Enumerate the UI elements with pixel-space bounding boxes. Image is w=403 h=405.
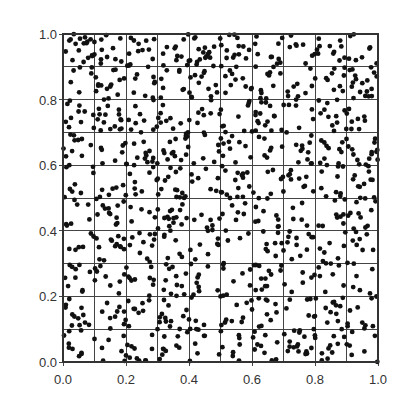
data-point (114, 222, 119, 227)
data-point (356, 117, 361, 122)
data-point (109, 82, 114, 87)
data-point (72, 198, 77, 203)
data-point (234, 218, 239, 223)
data-point (117, 305, 122, 310)
data-point (76, 109, 81, 114)
data-point (139, 189, 144, 194)
data-point (102, 258, 107, 263)
data-point (281, 248, 286, 253)
data-point (63, 305, 68, 310)
data-point (137, 231, 142, 236)
data-point (91, 164, 96, 169)
data-point (150, 243, 155, 248)
data-point (365, 89, 370, 94)
data-point (194, 327, 199, 332)
data-point (161, 148, 166, 153)
data-point (138, 251, 143, 256)
data-point (159, 187, 164, 192)
data-point (282, 282, 287, 287)
data-point (251, 190, 256, 195)
data-point (278, 268, 283, 273)
data-point (113, 67, 118, 72)
data-point (179, 158, 184, 163)
data-point (124, 162, 129, 167)
data-point (289, 257, 294, 262)
data-point (241, 44, 246, 49)
data-point (233, 77, 238, 82)
data-point (309, 133, 314, 138)
data-point (316, 265, 321, 270)
data-point (268, 104, 273, 109)
data-point (78, 36, 83, 41)
data-point (152, 80, 157, 85)
data-point (311, 189, 316, 194)
data-point (335, 174, 340, 179)
data-point (147, 210, 152, 215)
data-point (72, 138, 77, 143)
data-point (113, 158, 118, 163)
data-point (337, 147, 342, 152)
data-point (344, 137, 349, 142)
data-point (202, 323, 207, 328)
data-point (136, 49, 141, 54)
data-point (196, 176, 201, 181)
data-point (332, 66, 337, 71)
data-point (209, 98, 214, 103)
grid-lines (59, 34, 378, 366)
data-point (132, 163, 137, 168)
data-point (108, 127, 113, 132)
data-point (265, 298, 270, 303)
data-point (342, 335, 347, 340)
data-point (287, 339, 292, 344)
data-point (223, 228, 228, 233)
data-point (302, 334, 307, 339)
data-point (180, 202, 185, 207)
data-point (230, 134, 235, 139)
data-point (279, 128, 284, 133)
data-point (365, 78, 370, 83)
data-point (105, 86, 110, 91)
y-axis: 0.0 0.2 0.4 0.6 0.8 1.0 (39, 27, 57, 370)
data-point (370, 267, 375, 272)
data-point (280, 144, 285, 149)
data-point (286, 94, 291, 99)
data-point (337, 263, 342, 268)
data-point (158, 95, 163, 100)
data-point (206, 86, 211, 91)
data-point (156, 226, 161, 231)
data-point (89, 71, 94, 76)
data-point (237, 140, 242, 145)
data-point (199, 212, 204, 217)
data-point (319, 138, 324, 143)
data-point (117, 112, 122, 117)
data-point (212, 160, 217, 165)
data-point (316, 223, 321, 228)
data-point (281, 189, 286, 194)
data-point (216, 176, 221, 181)
data-point (70, 58, 75, 63)
data-point (228, 146, 233, 151)
data-point (317, 44, 322, 49)
data-point (312, 273, 317, 278)
data-point (208, 55, 213, 60)
data-point (248, 283, 253, 288)
data-point (279, 177, 284, 182)
data-point (295, 81, 300, 86)
data-point (193, 73, 198, 78)
data-point (106, 206, 111, 211)
data-point (216, 236, 221, 241)
data-point (165, 256, 170, 261)
data-point (325, 356, 330, 361)
data-point (253, 113, 258, 118)
data-point (79, 351, 84, 356)
data-point (67, 297, 72, 302)
data-point (326, 114, 331, 119)
data-point (347, 107, 352, 112)
data-point (175, 334, 180, 339)
data-point (331, 334, 336, 339)
data-point (168, 165, 173, 170)
data-point (70, 323, 75, 328)
data-point (144, 153, 149, 158)
data-point (162, 298, 167, 303)
data-point (122, 309, 127, 314)
